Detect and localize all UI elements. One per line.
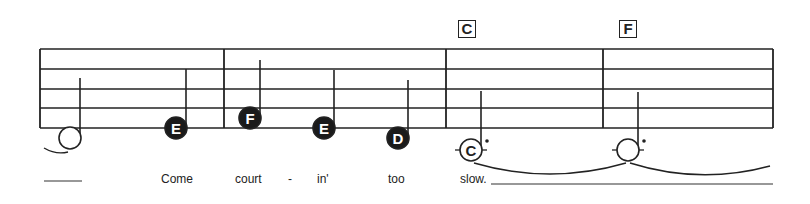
lyric-word: in' — [317, 172, 329, 186]
notehead-open — [59, 127, 81, 149]
tie-arc — [474, 163, 626, 174]
note-letter: F — [245, 110, 254, 127]
augmentation-dot — [642, 139, 646, 143]
lyric-word: - — [288, 172, 292, 186]
lyric-word: slow. — [460, 172, 487, 186]
notehead-open — [617, 139, 639, 161]
note-letter: D — [393, 130, 404, 147]
lyric-word: court — [235, 172, 262, 186]
chord-symbol-F: F — [619, 20, 637, 38]
lyric-word: too — [388, 172, 405, 186]
tie-arc — [630, 163, 770, 175]
music-staff: EFEDC — [0, 0, 810, 204]
note-letter: C — [466, 142, 477, 159]
note-letter: E — [171, 120, 181, 137]
augmentation-dot — [485, 139, 489, 143]
chord-symbol-C: C — [458, 20, 476, 38]
tie-arc — [44, 148, 68, 153]
note-letter: E — [319, 120, 329, 137]
lyric-word: Come — [161, 172, 193, 186]
